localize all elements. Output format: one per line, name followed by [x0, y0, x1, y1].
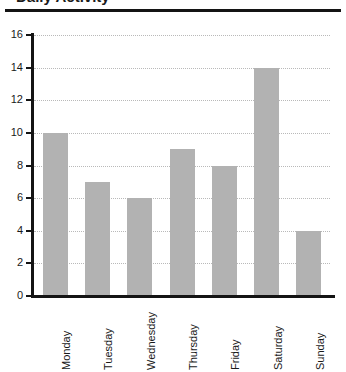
x-axis-baseline — [31, 295, 335, 298]
header-divider — [5, 9, 341, 12]
gridline — [34, 68, 330, 69]
x-axis-label-slot: Friday — [215, 302, 233, 372]
y-axis-label: 0 — [0, 290, 23, 301]
bar — [85, 182, 110, 296]
bar — [212, 166, 237, 297]
x-axis-label-slot: Sunday — [300, 302, 318, 372]
x-axis-label-slot: Thursday — [173, 302, 191, 372]
y-axis-label: 12 — [0, 94, 23, 105]
bar — [43, 133, 68, 296]
x-axis-label-slot: Wednesday — [131, 302, 149, 372]
y-axis-tick — [26, 230, 32, 232]
x-axis-label: Sunday — [314, 333, 326, 370]
y-axis-tick — [26, 295, 32, 297]
bar — [254, 68, 279, 296]
y-axis-label: 8 — [0, 160, 23, 171]
bar — [170, 149, 195, 296]
y-axis-label: 16 — [0, 29, 23, 40]
y-axis-tick — [26, 99, 32, 101]
plot-area — [34, 35, 330, 296]
gridline — [34, 133, 330, 134]
bar-chart: 0246810121416MondayTuesdayWednesdayThurs… — [0, 16, 346, 357]
chart-title-clip: Daily Activity — [0, 0, 346, 7]
y-axis-tick — [26, 132, 32, 134]
gridline — [34, 35, 330, 36]
x-axis-label-slot: Saturday — [258, 302, 276, 372]
x-axis-label: Saturday — [272, 326, 284, 370]
x-axis-label: Monday — [60, 331, 72, 370]
x-axis-label-slot: Tuesday — [88, 302, 106, 372]
gridline — [34, 100, 330, 101]
y-axis-label: 4 — [0, 225, 23, 236]
y-axis-tick — [26, 34, 32, 36]
y-axis-label: 14 — [0, 62, 23, 73]
x-axis-label: Tuesday — [102, 328, 114, 370]
bar — [127, 198, 152, 296]
y-axis-tick — [26, 165, 32, 167]
x-axis-label: Thursday — [187, 324, 199, 370]
y-axis-label: 6 — [0, 192, 23, 203]
x-axis-label: Wednesday — [145, 312, 157, 370]
bar — [296, 231, 321, 296]
y-axis-tick — [26, 67, 32, 69]
x-axis-label: Friday — [229, 339, 241, 370]
y-axis-label: 10 — [0, 127, 23, 138]
chart-title: Daily Activity — [16, 0, 110, 4]
x-axis-label-slot: Monday — [46, 302, 64, 372]
y-axis-label: 2 — [0, 257, 23, 268]
y-axis-tick — [26, 262, 32, 264]
y-axis-tick — [26, 197, 32, 199]
